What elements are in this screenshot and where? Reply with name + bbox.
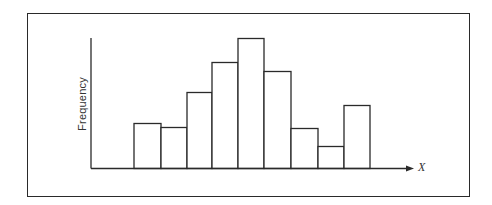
histogram-bar: [161, 128, 187, 169]
x-axis-label: X: [418, 160, 425, 175]
histogram-bar: [212, 63, 238, 169]
histogram-bar: [291, 129, 318, 169]
y-axis-label: Frequency: [76, 77, 88, 131]
histogram-bar: [318, 147, 344, 169]
histogram-bar: [238, 39, 264, 169]
histogram-bar: [344, 106, 370, 169]
histogram-bar: [134, 124, 161, 169]
histogram-bars: [134, 39, 370, 169]
histogram-bar: [187, 93, 212, 169]
x-axis-arrow-icon: [406, 166, 414, 172]
histogram-bar: [264, 72, 291, 169]
